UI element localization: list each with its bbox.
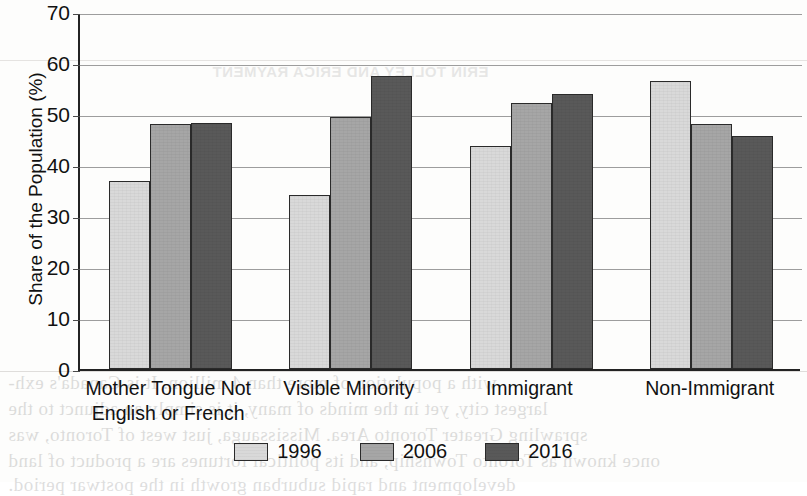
bar[interactable]	[691, 124, 732, 369]
bar[interactable]	[191, 123, 232, 369]
y-axis-tick	[73, 269, 80, 270]
x-axis-category-labels: Mother Tongue NotEnglish or FrenchVisibl…	[78, 376, 800, 434]
y-axis-tick	[73, 371, 80, 372]
bar[interactable]	[330, 117, 371, 369]
legend-label: 2006	[403, 440, 448, 463]
x-axis-category-line: Non-Immigrant	[592, 376, 807, 401]
x-axis-category-line: English or French	[50, 401, 287, 426]
y-axis-tick-label: 60	[47, 53, 70, 74]
legend-swatch-icon	[360, 443, 394, 461]
y-axis-tick-label: 40	[47, 155, 70, 176]
legend-swatch-icon	[485, 443, 519, 461]
y-axis-tick-label: 70	[47, 2, 70, 23]
bar[interactable]	[552, 94, 593, 369]
legend-label: 2016	[528, 440, 573, 463]
bar[interactable]	[650, 81, 691, 369]
y-axis-tick-label: 20	[47, 257, 70, 278]
bar[interactable]	[109, 181, 150, 369]
bar[interactable]	[511, 103, 552, 369]
y-axis-tick	[73, 116, 80, 117]
bar[interactable]	[732, 136, 773, 369]
bleed-through-line: development and rapid suburban growth in…	[8, 474, 516, 496]
y-axis-tick-label: 30	[47, 206, 70, 227]
plot-area	[78, 14, 800, 371]
legend-label: 1996	[277, 440, 322, 463]
y-axis-tick	[73, 65, 80, 66]
bar[interactable]	[371, 76, 412, 369]
bar[interactable]	[470, 146, 511, 369]
bar-group	[650, 12, 773, 369]
legend-item-1996[interactable]: 1996	[234, 440, 322, 463]
y-axis-tick	[73, 320, 80, 321]
y-axis-tick-label: 50	[47, 104, 70, 125]
x-axis-category-label: Non-Immigrant	[592, 376, 807, 401]
bar-group	[470, 12, 593, 369]
y-axis-tick	[73, 167, 80, 168]
bar[interactable]	[150, 124, 191, 369]
y-axis-tick-label: 10	[47, 308, 70, 329]
legend-item-2006[interactable]: 2006	[360, 440, 448, 463]
scan-streak	[0, 371, 807, 372]
y-axis-tick	[73, 218, 80, 219]
chart-legend: 199620062016	[0, 440, 807, 463]
bar-group	[289, 12, 412, 369]
legend-swatch-icon	[234, 443, 268, 461]
y-axis-tick	[73, 14, 80, 15]
legend-item-2016[interactable]: 2016	[485, 440, 573, 463]
y-axis-tick-labels: 706050403020100	[20, 14, 70, 371]
bar[interactable]	[289, 195, 330, 369]
bar-group	[109, 12, 232, 369]
